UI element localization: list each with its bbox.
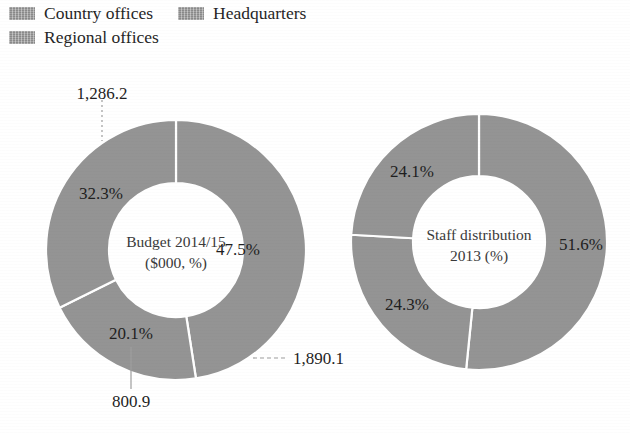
donut-charts-svg: 47.5% 20.1% 32.3% 1,286.2 800.9 1,890.1 …	[0, 0, 630, 433]
percent-label-headquarters-staff: 24.3%	[385, 295, 429, 314]
center-title-budget: Budget 2014/15	[126, 233, 226, 250]
center-subtitle-budget: ($000, %)	[145, 254, 207, 272]
percent-label-regional-budget: 32.3%	[79, 184, 123, 203]
percent-label-country-staff: 51.6%	[559, 235, 603, 254]
percent-label-headquarters-budget: 20.1%	[109, 324, 153, 343]
slice-regional-offices-budget[interactable]	[46, 120, 176, 308]
center-subtitle-staff: 2013 (%)	[450, 247, 508, 265]
value-label-headquarters-budget: 800.9	[112, 392, 150, 411]
percent-label-regional-staff: 24.1%	[390, 162, 434, 181]
value-label-regional-budget: 1,286.2	[77, 84, 128, 103]
donut-chart-budget: 47.5% 20.1% 32.3% 1,286.2 800.9 1,890.1 …	[46, 84, 344, 411]
center-title-staff: Staff distribution	[426, 226, 531, 243]
value-label-country-budget: 1,890.1	[293, 349, 344, 368]
donut-charts-container: 47.5% 20.1% 32.3% 1,286.2 800.9 1,890.1 …	[0, 0, 630, 433]
donut-chart-staff: 51.6% 24.3% 24.1% Staff distribution 201…	[351, 114, 607, 370]
